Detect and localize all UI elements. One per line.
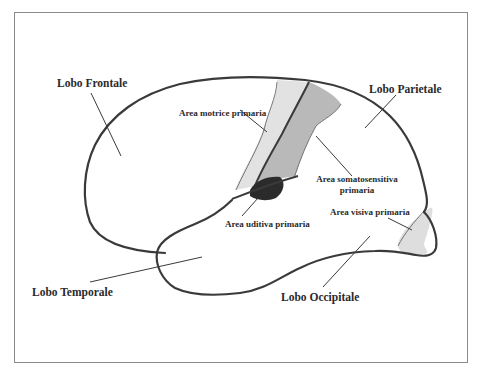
label-motor-area: Area motrice primaria — [179, 108, 267, 118]
label-auditory-area: Area uditiva primaria — [225, 219, 310, 229]
brain-diagram-svg: Lobo Frontale Lobo Parietale Area motric… — [0, 0, 479, 375]
label-somatosensory-area-line1: Area somatosensitiva — [316, 174, 398, 184]
label-temporal-lobe: Lobo Temporale — [32, 286, 113, 299]
label-frontal-lobe: Lobo Frontale — [57, 77, 127, 89]
label-occipital-lobe: Lobo Occipitale — [281, 291, 359, 304]
label-visual-area: Area visiva primaria — [330, 207, 410, 217]
brain-diagram: Lobo Frontale Lobo Parietale Area motric… — [0, 0, 479, 375]
label-parietal-lobe: Lobo Parietale — [369, 83, 442, 95]
label-somatosensory-area-line2: primaria — [340, 185, 375, 195]
